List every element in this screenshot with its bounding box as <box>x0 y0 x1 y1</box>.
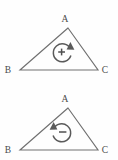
vertex-label-b: B <box>5 65 11 75</box>
positive-orientation-triangle-panel: A B C <box>0 0 118 80</box>
positive-triangle-svg: A B C <box>0 0 118 80</box>
vertex-label-c: C <box>102 65 108 75</box>
vertex-label-a: A <box>62 94 69 104</box>
triangle-outline <box>20 28 98 70</box>
vertex-label-a: A <box>62 14 69 24</box>
vertex-label-b: B <box>5 145 11 155</box>
negative-orientation-triangle-panel: A B C <box>0 80 118 160</box>
triangle-outline <box>20 108 98 150</box>
figure-root: A B C A B C <box>0 0 118 160</box>
negative-triangle-svg: A B C <box>0 80 118 160</box>
vertex-label-c: C <box>102 145 108 155</box>
plus-sign-icon <box>58 49 65 56</box>
